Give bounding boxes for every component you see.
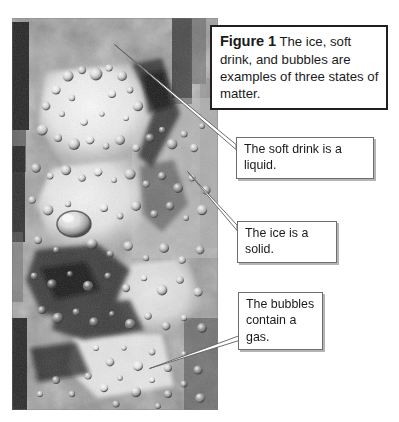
figure-root: Figure 1 The ice, soft drink, and bubble… [0, 0, 399, 422]
photo-soft-drink-ice-bubbles [12, 18, 218, 410]
photo-artwork [12, 18, 218, 410]
figure-caption-box: Figure 1 The ice, soft drink, and bubble… [210, 25, 388, 110]
callout-ice-solid: The ice is a solid. [237, 221, 337, 263]
callout-bubbles-gas: The bubbles contain a gas. [238, 292, 323, 350]
callout-soft-drink-liquid: The soft drink is a liquid. [236, 137, 374, 179]
figure-label: Figure 1 [220, 33, 276, 49]
